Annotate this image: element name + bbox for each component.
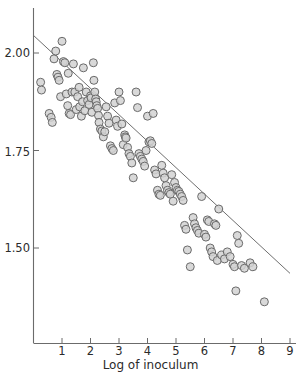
data-point — [55, 76, 63, 84]
x-tick-label-7: 7 — [225, 345, 241, 358]
x-tick-label-5: 5 — [168, 345, 184, 358]
data-point — [169, 197, 177, 205]
data-point — [232, 287, 240, 295]
y-tick-label-200: 2.00 — [0, 47, 30, 59]
data-point — [233, 232, 241, 240]
x-tick-label-1: 1 — [54, 345, 70, 358]
data-point — [64, 102, 72, 110]
data-point — [101, 128, 109, 136]
data-point — [75, 83, 83, 91]
x-axis-title: Log of inoculum — [0, 358, 301, 372]
data-point — [58, 37, 66, 45]
plot-canvas — [0, 0, 301, 378]
data-point — [69, 60, 77, 68]
data-point — [183, 246, 191, 254]
data-point — [61, 59, 69, 67]
y-tick-label-175: 1.75 — [0, 146, 30, 158]
data-point — [149, 109, 157, 117]
data-point — [50, 55, 58, 63]
data-point — [89, 59, 97, 67]
data-point — [79, 64, 87, 72]
data-point — [182, 225, 190, 233]
data-point — [90, 76, 98, 84]
x-tick-label-3: 3 — [111, 345, 127, 358]
data-point — [116, 97, 124, 105]
x-tick-label-4: 4 — [140, 345, 156, 358]
data-point — [122, 134, 130, 142]
data-point — [37, 78, 45, 86]
data-point — [168, 171, 176, 179]
data-point — [37, 86, 45, 94]
data-point — [141, 162, 149, 170]
data-point — [134, 104, 142, 112]
x-tick-label-6: 6 — [197, 345, 213, 358]
data-point — [198, 193, 206, 201]
data-point — [235, 239, 243, 247]
scatter-plot-figure: 2.00 1.75 1.50 123456789 Log of inoculum — [0, 0, 301, 378]
data-point — [249, 263, 257, 271]
data-point — [142, 147, 150, 155]
data-point — [64, 69, 72, 77]
data-point — [179, 196, 187, 204]
x-tick-label-2: 2 — [83, 345, 99, 358]
data-point — [115, 88, 123, 96]
data-point — [202, 233, 210, 241]
data-point — [186, 263, 194, 271]
data-point — [158, 161, 166, 169]
data-point — [129, 174, 137, 182]
data-point — [102, 103, 110, 111]
x-tick-label-9: 9 — [282, 345, 298, 358]
data-point — [215, 205, 223, 213]
data-point — [109, 147, 117, 155]
data-point — [260, 298, 268, 306]
data-point — [148, 139, 156, 147]
data-point — [212, 221, 220, 229]
data-points-group — [37, 37, 269, 306]
x-tick-label-8: 8 — [254, 345, 270, 358]
data-point — [118, 120, 126, 128]
data-point — [128, 159, 136, 167]
data-point — [132, 88, 140, 96]
data-point — [156, 191, 164, 199]
data-point — [52, 47, 60, 55]
data-point — [226, 253, 234, 261]
data-point — [48, 118, 56, 126]
y-tick-label-150: 1.50 — [0, 242, 30, 254]
